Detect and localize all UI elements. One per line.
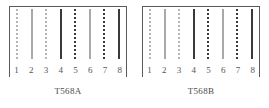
wire-strand bbox=[207, 9, 209, 59]
connector-panel-t568b: 1 2 3 4 5 6 7 8 T568B bbox=[139, 6, 263, 96]
wire-strand bbox=[236, 9, 238, 59]
wire-pin-1 bbox=[146, 9, 154, 59]
pin-number-7: 7 bbox=[101, 63, 109, 77]
pin-number-5: 5 bbox=[71, 63, 79, 77]
wire-group-t568a bbox=[10, 9, 126, 59]
panel-caption-t568b: T568B bbox=[188, 86, 215, 96]
wiring-standard-figure: 1 2 3 4 5 6 7 8 T568A bbox=[0, 0, 269, 108]
pin-number-3: 3 bbox=[175, 63, 183, 77]
rj45-connector-body-t568a bbox=[9, 6, 127, 62]
wire-strand bbox=[74, 9, 76, 59]
pin-number-1: 1 bbox=[145, 63, 153, 77]
pin-number-row-t568a: 1 2 3 4 5 6 7 8 bbox=[9, 63, 127, 77]
wire-strand bbox=[45, 9, 47, 59]
wire-pin-6 bbox=[219, 9, 227, 59]
wire-pin-3 bbox=[42, 9, 50, 59]
pin-number-8: 8 bbox=[116, 63, 124, 77]
wire-strand bbox=[118, 9, 120, 59]
wire-pin-3 bbox=[175, 9, 183, 59]
rj45-connector-body-t568b bbox=[142, 6, 260, 62]
wire-pin-7 bbox=[233, 9, 241, 59]
wire-pin-7 bbox=[100, 9, 108, 59]
wire-strand bbox=[193, 9, 195, 59]
connector-right-rail bbox=[126, 7, 127, 77]
pin-number-row-t568b: 1 2 3 4 5 6 7 8 bbox=[142, 63, 260, 77]
wire-group-t568b bbox=[143, 9, 259, 59]
wire-strand bbox=[149, 9, 151, 59]
wire-pin-4 bbox=[57, 9, 65, 59]
pin-number-2: 2 bbox=[27, 63, 35, 77]
wire-pin-5 bbox=[204, 9, 212, 59]
pin-number-4: 4 bbox=[57, 63, 65, 77]
wire-pin-8 bbox=[248, 9, 256, 59]
wire-pin-5 bbox=[71, 9, 79, 59]
wire-strand bbox=[31, 9, 33, 59]
wire-pin-2 bbox=[161, 9, 169, 59]
wire-strand bbox=[222, 9, 224, 59]
pin-number-2: 2 bbox=[160, 63, 168, 77]
pin-number-5: 5 bbox=[204, 63, 212, 77]
pin-number-6: 6 bbox=[219, 63, 227, 77]
wire-pin-4 bbox=[190, 9, 198, 59]
wire-strand bbox=[89, 9, 91, 59]
wire-pin-1 bbox=[13, 9, 21, 59]
pin-number-3: 3 bbox=[42, 63, 50, 77]
pin-number-8: 8 bbox=[249, 63, 257, 77]
pin-number-4: 4 bbox=[190, 63, 198, 77]
wire-pin-2 bbox=[28, 9, 36, 59]
wire-strand bbox=[164, 9, 166, 59]
wire-strand bbox=[251, 9, 253, 59]
pin-number-1: 1 bbox=[12, 63, 20, 77]
wire-pin-8 bbox=[115, 9, 123, 59]
wire-strand bbox=[178, 9, 180, 59]
wire-strand bbox=[16, 9, 18, 59]
connector-panel-t568a: 1 2 3 4 5 6 7 8 T568A bbox=[6, 6, 130, 96]
pin-number-6: 6 bbox=[86, 63, 94, 77]
wire-pin-6 bbox=[86, 9, 94, 59]
connector-right-rail bbox=[259, 7, 260, 77]
wire-strand bbox=[103, 9, 105, 59]
pin-number-7: 7 bbox=[234, 63, 242, 77]
wire-strand bbox=[60, 9, 62, 59]
panel-caption-t568a: T568A bbox=[55, 86, 82, 96]
